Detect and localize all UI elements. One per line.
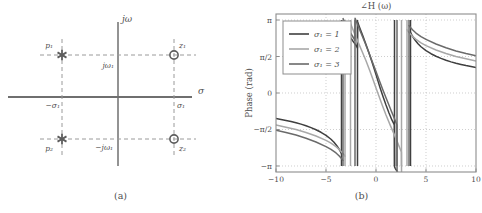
marker-label-p1: p₁	[45, 41, 53, 50]
subfigure-b-phase-plot: ∠H (ω)−10−50510ππ/20−π/2−πω (rad/s)Phase…	[241, 0, 482, 213]
xtick-label: 10	[471, 175, 481, 184]
marker-label-p2: p₂	[45, 144, 53, 153]
pole-zero-diagram: σjωp₁p₂z₁z₂−σ₁σ₁jω₁−jω₁	[0, 0, 241, 185]
xtick-label: 5	[424, 175, 429, 184]
caption-b: (b)	[241, 190, 482, 201]
marker-label-z4: z₂	[178, 144, 186, 153]
ytick-label: 0	[267, 89, 272, 98]
caption-a: (a)	[0, 190, 241, 201]
tick-label-sigma-neg: −σ₁	[46, 101, 60, 110]
legend: σ₁ = 1σ₁ = 2σ₁ = 3	[283, 21, 351, 74]
figure-root: σjωp₁p₂z₁z₂−σ₁σ₁jω₁−jω₁ (a) ∠H (ω)−10−50…	[0, 0, 482, 213]
legend-label: σ₁ = 1	[314, 30, 340, 39]
real-axis-label: σ	[198, 86, 205, 96]
tick-label-omega-neg: −jω₁	[95, 143, 113, 152]
y-axis-label: Phase (rad)	[244, 68, 254, 118]
xtick-label: −10	[268, 175, 284, 184]
phase-chart: ∠H (ω)−10−50510ππ/20−π/2−πω (rad/s)Phase…	[241, 0, 482, 185]
subfigure-a-pole-zero: σjωp₁p₂z₁z₂−σ₁σ₁jω₁−jω₁ (a)	[0, 0, 241, 213]
ytick-label: −π	[261, 162, 272, 171]
legend-label: σ₁ = 3	[314, 60, 340, 69]
ytick-label: −π/2	[253, 125, 272, 134]
xtick-label: −5	[320, 175, 331, 184]
legend-label: σ₁ = 2	[314, 45, 340, 54]
tick-label-omega-pos: jω₁	[101, 61, 114, 70]
ytick-label: π	[267, 16, 272, 25]
pole-marker-2	[57, 134, 66, 144]
chart-title: ∠H (ω)	[361, 1, 392, 11]
ytick-label: π/2	[260, 53, 272, 62]
tick-label-sigma-pos: σ₁	[177, 101, 185, 110]
pole-marker-1	[57, 50, 66, 60]
marker-label-z3: z₁	[178, 41, 186, 50]
imaginary-axis-label: jω	[120, 14, 133, 24]
xtick-label: 0	[374, 175, 379, 184]
